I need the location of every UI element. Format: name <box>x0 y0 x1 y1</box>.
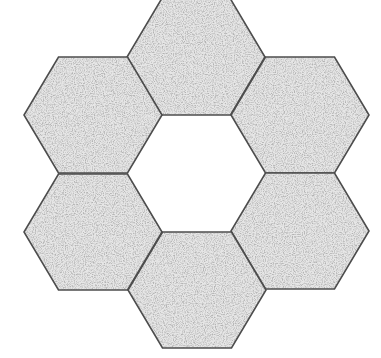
hexagon-ring-diagram <box>0 0 381 358</box>
hexagon-group <box>24 0 369 348</box>
hexagon-ring-canvas <box>0 0 381 358</box>
